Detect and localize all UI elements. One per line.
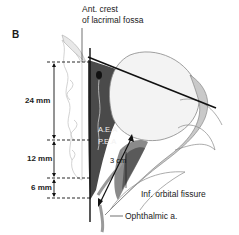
ethmoid-cells	[62, 40, 82, 180]
measure-12mm: 12 mm	[27, 155, 52, 163]
label-lacrimal-fossa: of lacrimal fossa	[82, 16, 143, 25]
orbit-illustration	[0, 0, 239, 235]
orbit-diagram: B Ant. crest of lacrimal fossa 24 mm 12 …	[0, 0, 239, 235]
panel-label: B	[12, 30, 19, 40]
measure-6mm: 6 mm	[31, 184, 52, 192]
label-aea: A.E.A	[98, 126, 117, 134]
label-ophthalmic: Ophthalmic a.	[125, 212, 177, 221]
label-pea: P.E.A	[98, 138, 116, 146]
label-inf-orbital-fissure: Inf. orbital fissure	[141, 190, 206, 199]
label-ant-crest: Ant. crest	[82, 5, 118, 14]
label-3cm: 3 cm	[110, 157, 126, 165]
dashed-guides	[47, 62, 90, 198]
nasal-bone	[62, 35, 86, 62]
measure-24mm: 24 mm	[25, 97, 50, 105]
